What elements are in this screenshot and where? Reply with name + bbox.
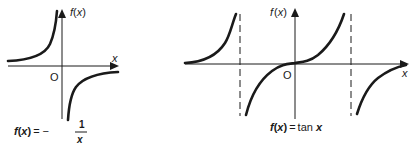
svg-text:1: 1 <box>79 119 85 130</box>
curve-branch-lower-right <box>68 72 118 120</box>
caption-tangent: f(x)=tanx <box>270 121 323 133</box>
function-graphs: f(x) x O f(x)=− 1 x f(x) <box>0 0 418 146</box>
y-axis-label: f(x) <box>70 6 86 18</box>
y-axis-label: f(x) <box>270 6 287 18</box>
svg-text:f(x)=−: f(x)=− <box>14 125 49 137</box>
y-axis-arrow-icon <box>58 9 66 18</box>
reciprocal-graph: f(x) x O f(x)=− 1 x <box>8 6 119 145</box>
origin-label: O <box>283 69 292 81</box>
curve-branch-upper-left <box>8 11 57 61</box>
svg-text:x: x <box>76 134 83 145</box>
origin-label: O <box>50 71 59 83</box>
curve-branch-left <box>185 14 236 63</box>
x-axis-label: x <box>401 67 408 79</box>
x-axis-label: x <box>111 52 118 64</box>
curve-branch-right <box>357 65 406 114</box>
caption-reciprocal: f(x)=− 1 x <box>14 119 87 145</box>
y-axis-arrow-icon <box>291 8 299 17</box>
tangent-graph: f(x) x O f(x)=tanx <box>185 6 409 133</box>
